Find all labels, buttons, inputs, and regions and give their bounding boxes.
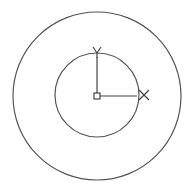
ucs-x-label-icon [139,90,149,100]
cad-drawing-canvas[interactable]: X Y [0,0,192,190]
ucs-origin-box [94,93,100,99]
ucs-icon [93,47,149,100]
outer-circle[interactable] [13,12,181,180]
